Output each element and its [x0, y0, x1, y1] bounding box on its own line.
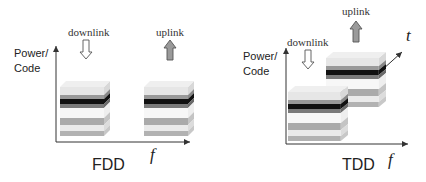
tdd-t-axis-label: t — [406, 26, 412, 45]
fdd-tdd-diagram: Power/ Code downlink uplink f FDD Power/… — [0, 0, 426, 182]
fdd-y-axis-label-line2: Code — [14, 62, 40, 74]
tdd-downlink-label: downlink — [287, 36, 329, 48]
fdd-downlink-arrow-icon — [80, 40, 92, 59]
fdd-downlink-label: downlink — [68, 26, 110, 38]
fdd-y-axis-label-line1: Power/ — [14, 47, 49, 59]
tdd-downlink-stack — [288, 86, 348, 141]
fdd-downlink-stack — [60, 81, 110, 136]
tdd-y-axis-label-line2: Code — [243, 65, 269, 77]
fdd-uplink-arrow-icon — [164, 40, 176, 60]
tdd-title: TDD — [342, 156, 375, 173]
fdd-uplink-stack — [144, 81, 194, 136]
tdd-x-axis-label: f — [388, 150, 395, 169]
tdd-uplink-label: uplink — [342, 5, 371, 17]
fdd-x-axis-label: f — [150, 145, 157, 164]
fdd-diagram: Power/ Code downlink uplink f FDD — [14, 26, 194, 173]
tdd-diagram: Power/ Code downlink uplink t f TDD — [243, 5, 412, 173]
fdd-title: FDD — [92, 156, 125, 173]
tdd-uplink-arrow-icon — [350, 21, 362, 42]
fdd-uplink-label: uplink — [156, 26, 185, 38]
tdd-downlink-arrow-icon — [302, 50, 314, 69]
tdd-y-axis-label-line1: Power/ — [243, 50, 278, 62]
